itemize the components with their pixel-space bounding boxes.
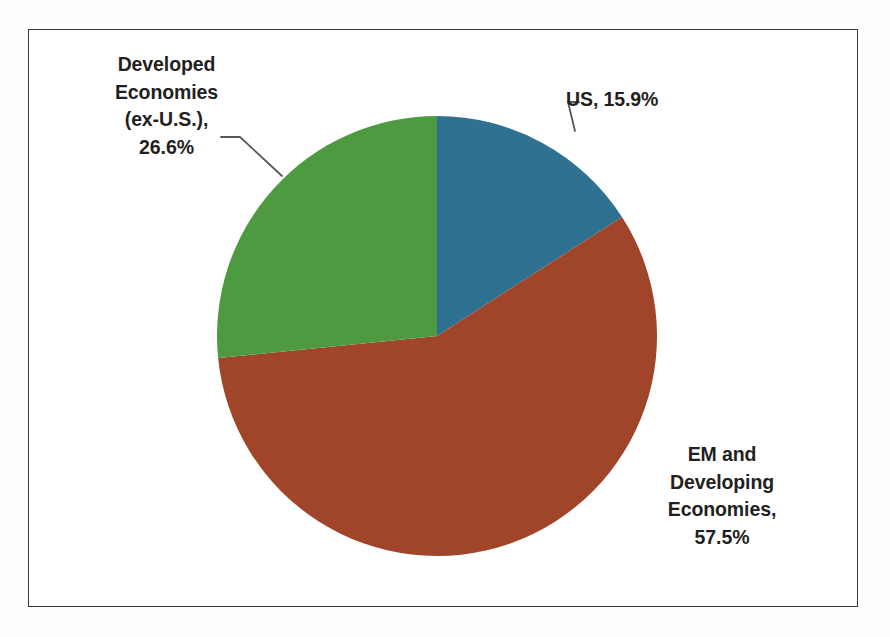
slice-label-developed-value: 26.6% <box>84 134 249 162</box>
pie-slices <box>217 116 657 556</box>
slice-label-developed-line-2: Economies <box>84 79 249 107</box>
pie-chart <box>217 116 657 556</box>
slice-label-developed-economies: Developed Economies (ex-U.S.), 26.6% <box>84 51 249 161</box>
pie-slice-developed-economies-ex-us[interactable] <box>217 116 437 358</box>
pie-svg <box>217 116 657 556</box>
slice-label-us: US, 15.9% <box>566 86 741 114</box>
slice-label-em-line-2: Developing <box>642 469 802 497</box>
slice-label-us-text: US, 15.9% <box>566 86 741 114</box>
slice-label-em-line-3: Economies, <box>642 496 802 524</box>
chart-page: Developed Economies (ex-U.S.), 26.6% US,… <box>0 0 890 637</box>
slice-label-em-line-1: EM and <box>642 441 802 469</box>
slice-label-em-value: 57.5% <box>642 524 802 552</box>
slice-label-em-and-developing-economies: EM and Developing Economies, 57.5% <box>642 441 802 551</box>
slice-label-developed-line-1: Developed <box>84 51 249 79</box>
slice-label-developed-line-3: (ex-U.S.), <box>84 106 249 134</box>
